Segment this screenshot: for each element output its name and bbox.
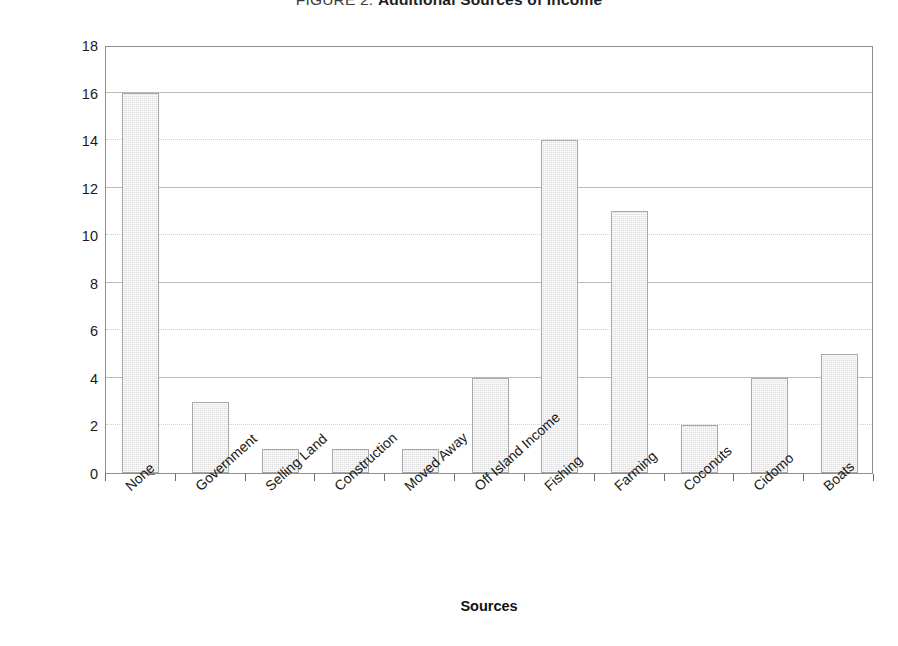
x-tick-mark [873,474,874,481]
bars-layer [106,47,872,473]
chart-title-prefix: FIGURE 2: [296,0,378,8]
y-tick-label-8: 8 [60,276,98,292]
y-axis-title: Number of Owners/Managers [14,0,44,76]
y-tick-label-14: 14 [60,133,98,149]
y-tick-label-12: 12 [60,181,98,197]
y-tick-label-2: 2 [60,418,98,434]
bar [821,354,858,473]
y-tick-label-4: 4 [60,371,98,387]
y-tick-label-0: 0 [60,466,98,482]
x-axis-title: Sources [105,598,873,614]
chart-title-main: Additional Sources of Income [378,0,602,8]
y-axis-tick-labels: 024681012141618 [50,46,98,474]
x-axis-tick-labels: NoneGovernmentSelling LandConstructionMo… [105,474,873,584]
y-tick-label-16: 16 [60,86,98,102]
y-tick-label-10: 10 [60,228,98,244]
y-tick-label-18: 18 [60,38,98,54]
plot-area [105,46,873,474]
bar [122,93,159,473]
y-tick-label-6: 6 [60,323,98,339]
chart-title: FIGURE 2: Additional Sources of Income [0,0,898,9]
bar [611,211,648,473]
